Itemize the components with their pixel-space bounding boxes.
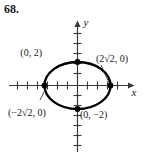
label-bottom-vertex: (0, −2) — [80, 109, 107, 121]
point-left-vertex — [42, 83, 48, 89]
y-axis-label: y — [83, 16, 89, 28]
point-right-vertex — [108, 83, 114, 89]
leader-right-vertex — [101, 65, 109, 83]
leader-lines — [40, 65, 109, 100]
leader-left-vertex — [40, 88, 46, 100]
label-top-vertex: (0, 2) — [20, 47, 42, 59]
ellipse-graph: (0, 2) (2√2, 0) (−2√2, 0) (0, −2) x y — [0, 0, 146, 157]
y-axis — [74, 21, 80, 153]
label-right-vertex: (2√2, 0) — [96, 53, 128, 65]
label-left-vertex: (−2√2, 0) — [8, 107, 46, 119]
figure-container: 68. — [0, 0, 146, 157]
point-top-vertex — [75, 59, 81, 65]
x-axis-label: x — [131, 86, 137, 98]
